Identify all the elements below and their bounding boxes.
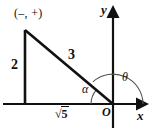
theta-angle-label: θ xyxy=(122,71,128,83)
alpha-angle-label: α xyxy=(82,83,88,95)
geometry-diagram: (–, +) 2 3 √5 α θ O x y xyxy=(0,0,151,133)
triangle-hypotenuse xyxy=(25,30,113,104)
hypotenuse-length-label: 3 xyxy=(68,48,75,62)
radicand-value: 5 xyxy=(61,106,69,121)
theta-angle-arc xyxy=(93,74,143,104)
y-axis-label: y xyxy=(101,3,107,16)
quadrant-sign-label: (–, +) xyxy=(14,7,43,19)
horizontal-leg-length-label: √5 xyxy=(55,108,69,120)
x-axis-label: x xyxy=(137,109,144,122)
alpha-angle-arc xyxy=(91,90,97,104)
origin-label: O xyxy=(102,106,111,118)
vertical-leg-length-label: 2 xyxy=(11,58,18,72)
